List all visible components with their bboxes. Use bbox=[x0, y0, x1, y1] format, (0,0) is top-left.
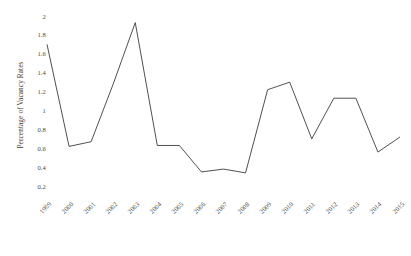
y-axis-tick-mark bbox=[46, 186, 49, 187]
x-axis-tick-mark bbox=[224, 205, 225, 208]
y-axis-tick-mark bbox=[46, 111, 49, 112]
x-axis-tick-mark bbox=[268, 205, 269, 208]
x-axis-tick-mark bbox=[400, 205, 401, 208]
x-axis-tick-mark bbox=[378, 205, 379, 208]
x-axis-tick-mark bbox=[290, 205, 291, 208]
x-axis-tick-mark bbox=[201, 205, 202, 208]
x-axis-tick-mark bbox=[69, 205, 70, 208]
y-axis-tick-mark bbox=[46, 148, 49, 149]
x-axis-tick-mark bbox=[356, 205, 357, 208]
y-axis-tick-mark bbox=[46, 129, 49, 130]
x-axis-tick-mark bbox=[47, 205, 48, 208]
y-axis-tick-mark bbox=[46, 73, 49, 74]
x-axis-tick-mark bbox=[334, 205, 335, 208]
y-axis-tick-mark bbox=[46, 167, 49, 168]
y-axis-tick-mark bbox=[46, 54, 49, 55]
x-axis-tick-mark bbox=[113, 205, 114, 208]
line-chart: Percentage of Vacancy Rates 00.20.40.60.… bbox=[0, 0, 411, 256]
y-axis-tick-mark bbox=[46, 35, 49, 36]
x-axis-tick-mark bbox=[157, 205, 158, 208]
plot-area bbox=[0, 0, 411, 256]
x-axis-tick-mark bbox=[312, 205, 313, 208]
x-axis-tick-mark bbox=[91, 205, 92, 208]
y-axis-tick-mark bbox=[46, 92, 49, 93]
series-line-vacancy-rate bbox=[47, 23, 400, 173]
x-axis-tick-mark bbox=[135, 205, 136, 208]
x-axis-tick-mark bbox=[246, 205, 247, 208]
y-axis-tick-mark bbox=[46, 16, 49, 17]
x-axis-tick-mark bbox=[179, 205, 180, 208]
